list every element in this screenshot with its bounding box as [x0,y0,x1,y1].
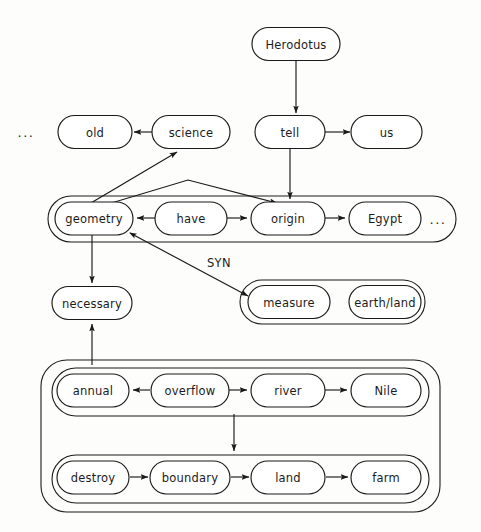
node-measure-label: measure [263,296,315,310]
node-boundary[interactable]: boundary [150,461,230,494]
node-have-label: have [176,212,205,226]
node-river[interactable]: river [251,374,325,407]
syn-edge-label: SYN [207,256,231,270]
node-geometry[interactable]: geometry [55,202,133,235]
node-necessary[interactable]: necessary [52,287,132,320]
node-earth-land-label: earth/land [354,296,415,310]
node-origin[interactable]: origin [251,202,325,235]
node-egypt[interactable]: Egypt [349,202,421,235]
node-farm-label: farm [372,471,400,485]
diagram-svg: Herodotus old science tell us geometry [0,0,481,532]
node-overflow-label: overflow [165,384,216,398]
node-nile[interactable]: Nile [351,374,421,407]
node-measure[interactable]: measure [248,286,330,319]
node-annual-label: annual [73,384,113,398]
nodes: Herodotus old science tell us geometry [52,28,422,495]
node-tell-label: tell [281,126,300,140]
node-necessary-label: necessary [62,297,122,311]
node-herodotus[interactable]: Herodotus [252,28,340,61]
node-earth-land[interactable]: earth/land [349,286,421,319]
node-land[interactable]: land [251,461,325,494]
node-destroy[interactable]: destroy [57,461,129,494]
node-us-label: us [380,126,394,140]
node-annual[interactable]: annual [57,374,129,407]
node-destroy-label: destroy [71,471,116,485]
node-overflow[interactable]: overflow [151,374,229,407]
node-tell[interactable]: tell [255,116,325,149]
node-land-label: land [275,471,301,485]
node-have[interactable]: have [155,202,227,235]
concept-diagram-canvas: Herodotus old science tell us geometry [0,0,481,532]
node-nile-label: Nile [375,384,398,398]
node-old[interactable]: old [58,116,132,149]
node-old-label: old [86,126,104,140]
node-us[interactable]: us [351,116,422,149]
node-egypt-label: Egypt [368,212,402,226]
node-boundary-label: boundary [162,471,218,485]
node-science-label: science [169,126,214,140]
node-river-label: river [274,384,302,398]
node-origin-label: origin [271,212,305,226]
node-farm[interactable]: farm [351,461,421,494]
ellipsis-right-label: ... [430,212,447,227]
node-science[interactable]: science [152,116,230,149]
node-herodotus-label: Herodotus [265,38,326,52]
ellipsis-left-label: ... [18,125,35,140]
node-geometry-label: geometry [65,212,122,226]
